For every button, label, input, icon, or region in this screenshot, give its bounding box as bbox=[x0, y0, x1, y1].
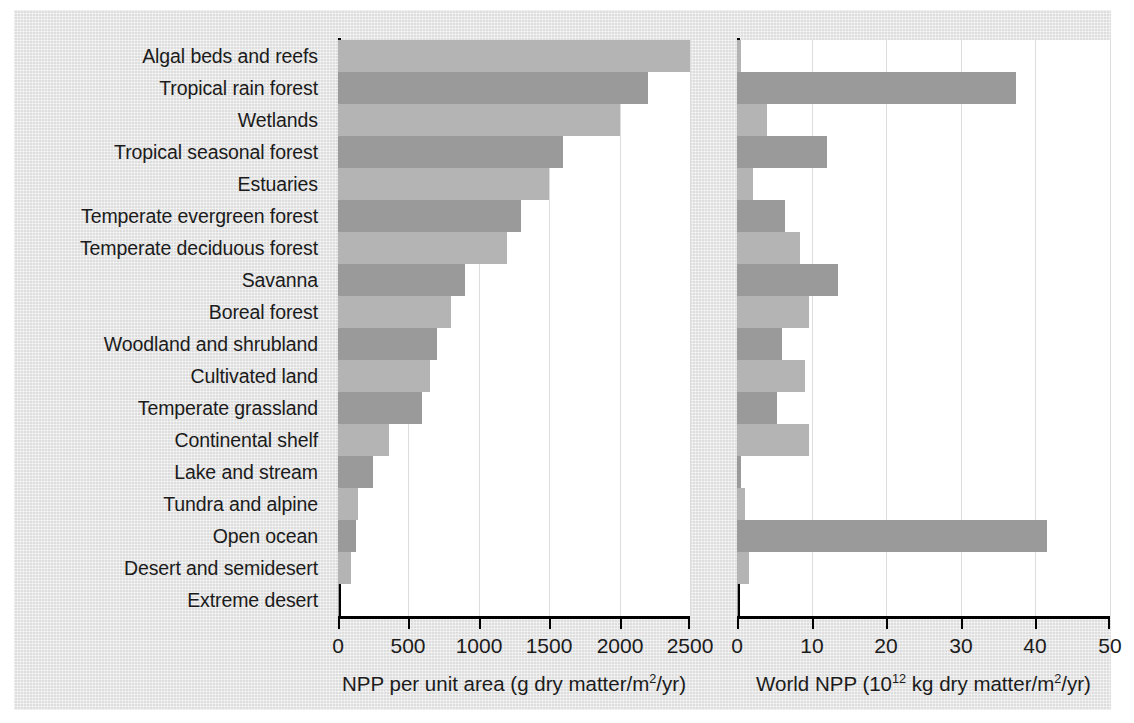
bar bbox=[338, 264, 465, 296]
x-tick bbox=[1108, 618, 1110, 629]
x-axis-spine-right bbox=[737, 616, 1110, 619]
x-tick bbox=[1035, 618, 1037, 629]
gridline bbox=[1110, 40, 1111, 616]
category-label: Extreme desert bbox=[187, 584, 318, 616]
bar bbox=[338, 200, 521, 232]
bar bbox=[737, 200, 785, 232]
category-label: Lake and stream bbox=[174, 456, 318, 488]
x-axis-title-left: NPP per unit area (g dry matter/m2/yr) bbox=[342, 672, 686, 696]
bar bbox=[737, 584, 738, 616]
x-tick bbox=[338, 618, 340, 629]
bar bbox=[737, 168, 753, 200]
bar bbox=[737, 488, 745, 520]
bar bbox=[338, 488, 358, 520]
category-label: Open ocean bbox=[213, 520, 318, 552]
category-label: Boreal forest bbox=[209, 296, 318, 328]
bar bbox=[338, 456, 373, 488]
x-tick bbox=[688, 618, 690, 629]
bar bbox=[338, 104, 620, 136]
x-tick-label: 20 bbox=[874, 634, 897, 658]
category-label: Wetlands bbox=[238, 104, 318, 136]
x-tick-label: 30 bbox=[949, 634, 972, 658]
x-axis-title-right: World NPP (1012 kg dry matter/m2/yr) bbox=[756, 672, 1091, 696]
category-label: Savanna bbox=[242, 264, 318, 296]
x-tick bbox=[886, 618, 888, 629]
chart-panel-world-npp: 01020304050 World NPP (1012 kg dry matte… bbox=[737, 40, 1110, 616]
x-tick bbox=[549, 618, 551, 629]
bar bbox=[338, 360, 430, 392]
bar bbox=[737, 520, 1047, 552]
category-label-column: Algal beds and reefsTropical rain forest… bbox=[0, 40, 326, 616]
category-label: Woodland and shrubland bbox=[104, 328, 318, 360]
figure-root: Algal beds and reefsTropical rain forest… bbox=[0, 0, 1134, 723]
x-tick-label: 1000 bbox=[456, 634, 503, 658]
x-tick bbox=[812, 618, 814, 629]
bar bbox=[737, 40, 741, 72]
bar bbox=[737, 392, 777, 424]
bar bbox=[338, 552, 351, 584]
bar bbox=[338, 424, 389, 456]
bar bbox=[737, 424, 809, 456]
x-tick-label: 10 bbox=[800, 634, 823, 658]
bar bbox=[737, 136, 827, 168]
x-tick-label: 2000 bbox=[597, 634, 644, 658]
x-axis-spine-left bbox=[338, 616, 690, 619]
category-label: Algal beds and reefs bbox=[142, 40, 318, 72]
category-label: Tropical rain forest bbox=[159, 72, 318, 104]
bar bbox=[737, 328, 782, 360]
x-tick-label: 0 bbox=[332, 634, 344, 658]
bar bbox=[737, 360, 805, 392]
bar bbox=[737, 264, 838, 296]
gridline bbox=[690, 40, 691, 616]
x-tick-label: 40 bbox=[1023, 634, 1046, 658]
x-tick bbox=[408, 618, 410, 629]
bar-series-left bbox=[338, 40, 690, 616]
bar bbox=[338, 136, 563, 168]
x-tick bbox=[620, 618, 622, 629]
x-tick-label: 0 bbox=[731, 634, 743, 658]
bar bbox=[338, 328, 437, 360]
bar bbox=[338, 168, 549, 200]
bar bbox=[737, 104, 767, 136]
category-label: Continental shelf bbox=[174, 424, 318, 456]
category-label: Tundra and alpine bbox=[163, 488, 318, 520]
category-label: Desert and semidesert bbox=[124, 552, 318, 584]
bar bbox=[737, 72, 1016, 104]
category-label: Tropical seasonal forest bbox=[114, 136, 318, 168]
bar bbox=[338, 392, 422, 424]
bar bbox=[338, 72, 648, 104]
x-tick-label: 50 bbox=[1098, 634, 1121, 658]
x-tick-label: 1500 bbox=[526, 634, 573, 658]
category-label: Temperate evergreen forest bbox=[81, 200, 318, 232]
x-tick bbox=[961, 618, 963, 629]
bar bbox=[737, 456, 741, 488]
category-label: Cultivated land bbox=[191, 360, 319, 392]
x-tick bbox=[737, 618, 739, 629]
x-tick-label: 2500 bbox=[667, 634, 714, 658]
bar bbox=[338, 40, 690, 72]
x-tick-label: 500 bbox=[390, 634, 425, 658]
category-label: Temperate deciduous forest bbox=[80, 232, 318, 264]
category-label: Estuaries bbox=[238, 168, 318, 200]
bar bbox=[338, 232, 507, 264]
x-tick bbox=[479, 618, 481, 629]
category-label: Temperate grassland bbox=[138, 392, 318, 424]
bar-series-right bbox=[737, 40, 1110, 616]
bar bbox=[737, 232, 800, 264]
bar bbox=[737, 552, 749, 584]
bar bbox=[338, 520, 356, 552]
chart-panel-npp-per-unit-area: 05001000150020002500 NPP per unit area (… bbox=[338, 40, 690, 616]
bar bbox=[737, 296, 809, 328]
bar bbox=[338, 296, 451, 328]
